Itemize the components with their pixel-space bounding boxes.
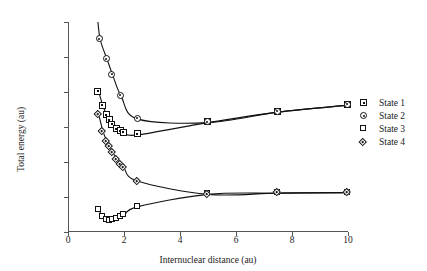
legend-item-state-2[interactable]: State 2 xyxy=(357,109,405,122)
data-point-marker xyxy=(95,206,101,212)
data-point-marker xyxy=(344,101,351,108)
legend-label: State 3 xyxy=(379,124,405,134)
legend-label: State 4 xyxy=(379,137,405,147)
data-point-marker xyxy=(120,129,127,136)
series-line xyxy=(97,17,348,123)
data-point-marker xyxy=(117,92,124,99)
x-tick-label: 2 xyxy=(109,236,139,246)
data-point-marker xyxy=(94,88,101,95)
data-point-marker xyxy=(134,203,140,209)
legend-item-state-4[interactable]: State 4 xyxy=(357,135,405,148)
x-tick-label: 10 xyxy=(333,236,363,246)
legend-item-state-3[interactable]: State 3 xyxy=(357,122,405,135)
x-tick-label: 4 xyxy=(165,236,195,246)
circle-dot-icon xyxy=(357,109,371,122)
figure-container: 0.0-0.2-0.4-0.6-0.8-1.0-1.2 0246810 Inte… xyxy=(0,0,427,271)
x-axis-title: Internuclear distance (au) xyxy=(68,255,348,265)
legend-label: State 2 xyxy=(379,111,405,121)
x-tick-label: 6 xyxy=(221,236,251,246)
square-dot-icon xyxy=(357,96,371,109)
data-point-marker xyxy=(274,108,281,115)
x-tick-label: 0 xyxy=(53,236,83,246)
legend-item-state-1[interactable]: State 1 xyxy=(357,96,405,109)
data-point-marker xyxy=(103,55,110,62)
data-point-marker xyxy=(134,115,141,122)
data-point-marker xyxy=(99,102,106,109)
square-icon xyxy=(357,122,371,135)
diamond-icon xyxy=(357,135,371,148)
series-line xyxy=(99,92,348,135)
x-tick-label: 8 xyxy=(277,236,307,246)
legend-label: State 1 xyxy=(379,98,405,108)
data-point-marker xyxy=(96,35,103,42)
data-point-marker xyxy=(204,118,211,125)
plot-area: 0.0-0.2-0.4-0.6-0.8-1.0-1.2 0246810 Inte… xyxy=(68,22,348,232)
y-axis-title: Total energy (au) xyxy=(16,107,26,172)
data-point-marker xyxy=(120,211,126,217)
data-point-marker xyxy=(134,130,141,137)
legend: State 1State 2State 3State 4 xyxy=(357,96,405,148)
